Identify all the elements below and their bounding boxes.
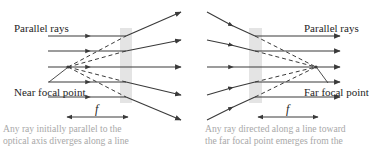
far-focal-point-label: Far focal point xyxy=(304,86,369,98)
left-parallel-rays-label: Parallel rays xyxy=(14,22,69,34)
right-f-label: f xyxy=(286,103,289,115)
far-focal-leader xyxy=(317,68,328,83)
near-focal-point-label: Near focal point xyxy=(14,86,85,98)
right-incoming-rays xyxy=(207,12,255,120)
right-parallel-rays-label: Parallel rays xyxy=(304,22,359,34)
left-f-label: f xyxy=(95,103,98,115)
right-caption-line-1: Any ray directed along a line toward xyxy=(205,123,346,135)
right-lens xyxy=(249,28,262,103)
left-caption-line-2: optical axis diverges along a line xyxy=(3,135,129,147)
left-outgoing-rays xyxy=(126,12,181,120)
left-caption-line-1: Any ray initially parallel to the xyxy=(3,123,122,135)
near-focal-leader xyxy=(49,68,67,82)
left-lens xyxy=(120,28,132,103)
right-caption-line-2: the far focal point emerges from the xyxy=(205,135,343,147)
